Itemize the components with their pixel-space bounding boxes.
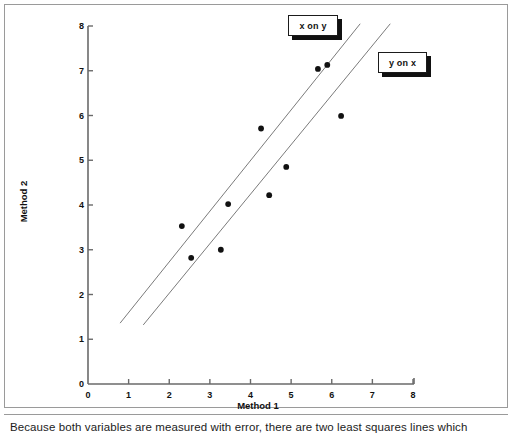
legend-callout-x-on-y: x on y [288, 15, 338, 36]
x-tick-label: 0 [81, 390, 95, 400]
x-tick-label: 2 [162, 390, 176, 400]
y-axis-title: Method 2 [18, 162, 29, 242]
y-tick-label: 0 [72, 379, 84, 389]
y-tick-label: 1 [72, 334, 84, 344]
plot-axes [88, 26, 414, 384]
x-tick-label: 7 [365, 390, 379, 400]
x-tick-label: 1 [122, 390, 136, 400]
legend-callout-y-on-x: y on x [378, 52, 427, 73]
y-tick-label: 2 [72, 290, 84, 300]
data-points [179, 62, 344, 261]
y-tick-label: 4 [72, 200, 84, 210]
x-axis-title: Method 1 [0, 400, 516, 411]
y-tick-label: 8 [72, 21, 84, 31]
x-tick-label: 4 [244, 390, 258, 400]
x-tick-label: 6 [325, 390, 339, 400]
y-tick-label: 5 [72, 155, 84, 165]
figure-caption: Because both variables are measured with… [10, 421, 508, 433]
caption-divider [4, 414, 508, 415]
figure-page: 012345678 012345678 Method 1 Method 2 x … [0, 0, 516, 441]
y-tick-label: 6 [72, 111, 84, 121]
x-tick-label: 3 [203, 390, 217, 400]
regression-lines [120, 24, 390, 325]
x-tick-label: 8 [406, 390, 420, 400]
y-tick-label: 7 [72, 66, 84, 76]
x-tick-label: 5 [284, 390, 298, 400]
y-tick-label: 3 [72, 245, 84, 255]
scatter-plot: 012345678 012345678 Method 1 Method 2 x … [0, 0, 516, 410]
